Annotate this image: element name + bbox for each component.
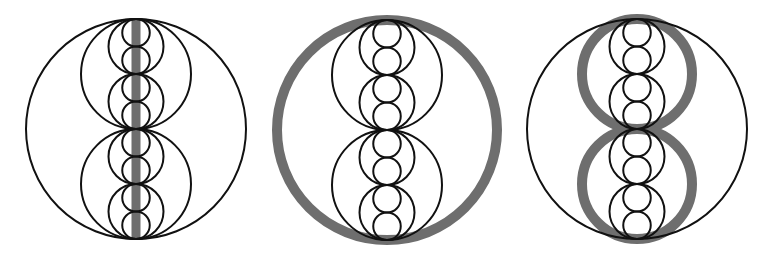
panel-3: [527, 19, 747, 239]
tiny-circle: [373, 185, 401, 213]
tiny-circle: [623, 184, 651, 212]
tiny-circle: [623, 74, 651, 102]
panel-2: [277, 20, 497, 240]
tiny-circle: [623, 47, 651, 75]
nested-circles-diagram: [0, 0, 776, 253]
tiny-circle: [373, 48, 401, 76]
tiny-circle: [373, 158, 401, 186]
tiny-circle: [623, 157, 651, 185]
tiny-circle: [373, 130, 401, 158]
tiny-circle: [373, 103, 401, 131]
panel-1: [26, 19, 246, 239]
tiny-circle: [373, 75, 401, 103]
diagram-canvas: [0, 0, 776, 253]
